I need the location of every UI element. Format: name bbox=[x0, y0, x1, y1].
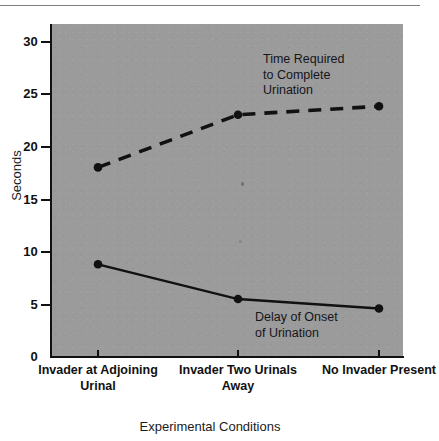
annotation-time-required: Time Required to Complete Urination bbox=[263, 52, 345, 99]
y-axis-tick-10 bbox=[41, 251, 51, 253]
x-axis-category-label-3: No Invader Present bbox=[319, 362, 439, 378]
x-axis-tick-3 bbox=[378, 350, 380, 358]
y-axis-tick-30 bbox=[41, 41, 51, 43]
y-axis-label-10: 10 bbox=[2, 244, 38, 259]
plot-background-texture bbox=[51, 24, 403, 357]
scan-speck bbox=[241, 182, 244, 186]
y-axis-tick-5 bbox=[41, 304, 51, 306]
top-divider-rule bbox=[0, 5, 420, 6]
x-axis-tick-1 bbox=[97, 350, 99, 358]
x-axis-category-label-2: Invader Two Urinals Away bbox=[178, 362, 298, 394]
y-axis-line bbox=[50, 24, 52, 358]
x-axis-line bbox=[50, 356, 404, 358]
y-axis-title: Seconds bbox=[9, 136, 24, 216]
y-axis-tick-25 bbox=[41, 93, 51, 95]
x-axis-title: Experimental Conditions bbox=[0, 419, 420, 434]
plot-area bbox=[51, 24, 403, 357]
y-axis-tick-20 bbox=[41, 146, 51, 148]
y-axis-label-5: 5 bbox=[2, 297, 38, 312]
y-axis-label-30: 30 bbox=[2, 34, 38, 49]
annotation-delay-of-onset: Delay of Onset of Urination bbox=[255, 310, 338, 341]
y-axis-label-0: 0 bbox=[2, 349, 38, 364]
scan-speck bbox=[239, 240, 242, 243]
y-axis-tick-15 bbox=[41, 199, 51, 201]
y-axis-label-25: 25 bbox=[2, 86, 38, 101]
x-axis-tick-2 bbox=[237, 350, 239, 358]
x-axis-category-label-1: Invader at Adjoining Urinal bbox=[38, 362, 158, 394]
